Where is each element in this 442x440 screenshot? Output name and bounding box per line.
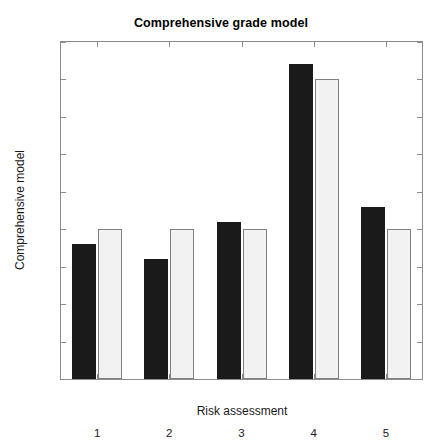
y-axis-tick-right <box>417 304 423 305</box>
y-axis-tick-right <box>417 229 423 230</box>
x-axis-tick-label: 4 <box>294 427 334 439</box>
bar-series-dark-4 <box>289 64 313 379</box>
y-axis-tick-right <box>417 42 423 43</box>
bar-series-dark-2 <box>144 259 168 379</box>
chart-figure: Comprehensive grade model Comprehensive … <box>0 0 442 440</box>
y-axis-tick <box>60 379 66 380</box>
y-axis-tick-right <box>417 192 423 193</box>
bar-series-light-2 <box>170 229 194 379</box>
x-axis-tick-top <box>386 41 387 47</box>
x-axis-tick-label: 1 <box>77 427 117 439</box>
y-axis-tick <box>60 342 66 343</box>
x-axis-tick-top <box>314 41 315 47</box>
x-axis-tick-label: 3 <box>222 427 262 439</box>
bar-series-light-1 <box>98 229 122 379</box>
x-axis-label: Risk assessment <box>60 404 424 418</box>
bar-series-dark-3 <box>217 222 241 379</box>
y-axis-tick <box>60 304 66 305</box>
y-axis-tick <box>60 117 66 118</box>
y-axis-tick-right <box>417 379 423 380</box>
y-axis-tick-right <box>417 79 423 80</box>
bar-series-light-5 <box>387 229 411 379</box>
y-axis-tick-right <box>417 342 423 343</box>
y-axis-tick <box>60 267 66 268</box>
x-axis-tick-top <box>242 41 243 47</box>
x-axis-tick-label: 5 <box>366 427 406 439</box>
y-axis-tick <box>60 192 66 193</box>
y-axis-tick-right <box>417 267 423 268</box>
plot-area: 00.511.522.533.544.512345 <box>60 41 423 380</box>
y-axis-tick-right <box>417 117 423 118</box>
y-axis-tick <box>60 229 66 230</box>
y-axis-label: Comprehensive model <box>13 110 27 310</box>
chart-title: Comprehensive grade model <box>0 16 442 30</box>
y-axis-tick <box>60 79 66 80</box>
plot-inner: 00.511.522.533.544.512345 <box>61 42 422 379</box>
x-axis-tick-label: 2 <box>149 427 189 439</box>
y-axis-tick-right <box>417 154 423 155</box>
bar-series-dark-5 <box>361 207 385 379</box>
x-axis-tick-top <box>169 41 170 47</box>
bar-series-light-3 <box>243 229 267 379</box>
bar-series-dark-1 <box>72 244 96 379</box>
x-axis-tick-top <box>97 41 98 47</box>
bar-series-light-4 <box>315 79 339 379</box>
y-axis-tick <box>60 42 66 43</box>
y-axis-tick <box>60 154 66 155</box>
